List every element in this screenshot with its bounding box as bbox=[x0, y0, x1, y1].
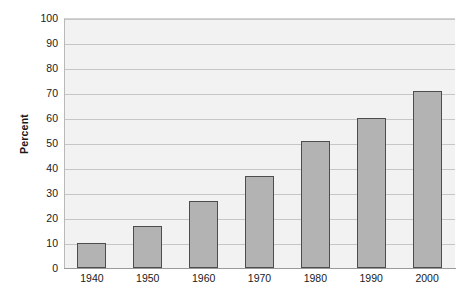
y-axis-tick-label: 80 bbox=[6, 62, 58, 74]
bar bbox=[413, 91, 442, 269]
y-axis-tick-label: 20 bbox=[6, 212, 58, 224]
x-axis-tick-label: 2000 bbox=[415, 272, 438, 284]
x-axis-tick-label: 1960 bbox=[192, 272, 215, 284]
bar-series bbox=[64, 18, 455, 268]
x-axis-tick-label: 1980 bbox=[304, 272, 327, 284]
bar bbox=[245, 176, 274, 269]
bar bbox=[301, 141, 330, 269]
x-axis-line bbox=[64, 268, 456, 269]
y-axis-tick-label: 40 bbox=[6, 162, 58, 174]
y-axis-tick-label: 100 bbox=[6, 12, 58, 24]
x-axis-tick-label: 1950 bbox=[136, 272, 159, 284]
x-axis-tick-labels: 1940195019601970198019902000 bbox=[64, 272, 455, 292]
y-axis-tick-label: 10 bbox=[6, 237, 58, 249]
y-axis-tick-labels: 0102030405060708090100 bbox=[0, 0, 58, 299]
bar bbox=[189, 201, 218, 269]
x-axis-tick-label: 1940 bbox=[80, 272, 103, 284]
bar bbox=[357, 118, 386, 268]
x-axis-tick-label: 1990 bbox=[360, 272, 383, 284]
bar bbox=[77, 243, 106, 268]
y-axis-tick-label: 50 bbox=[6, 137, 58, 149]
x-axis-tick-label: 1970 bbox=[248, 272, 271, 284]
bar-chart: Percent 0102030405060708090100 194019501… bbox=[0, 0, 467, 299]
y-axis-tick-label: 0 bbox=[6, 262, 58, 274]
y-axis-tick-label: 30 bbox=[6, 187, 58, 199]
y-axis-tick-label: 70 bbox=[6, 87, 58, 99]
y-axis-tick-label: 60 bbox=[6, 112, 58, 124]
y-axis-tick-label: 90 bbox=[6, 37, 58, 49]
bar bbox=[133, 226, 162, 269]
